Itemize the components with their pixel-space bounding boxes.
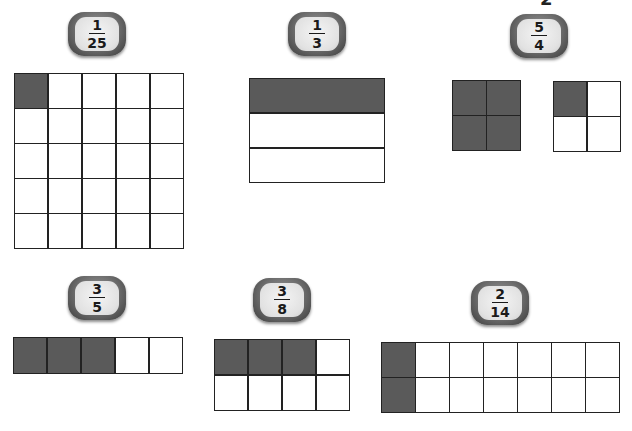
unshaded-cell <box>484 343 517 377</box>
fraction-badge-5-4: 5 4 <box>510 14 568 58</box>
fraction-model-1-25 <box>14 73 184 249</box>
numerator: 1 <box>312 18 322 32</box>
denominator: 14 <box>490 305 509 319</box>
unshaded-cell <box>317 340 349 374</box>
fraction-badge-3-5: 3 5 <box>68 276 126 320</box>
unshaded-cell <box>588 117 620 151</box>
unshaded-cell <box>83 144 115 178</box>
unshaded-cell <box>15 109 47 143</box>
unshaded-cell <box>588 82 620 116</box>
denominator: 4 <box>534 38 544 52</box>
fraction-bar <box>309 33 325 35</box>
unshaded-cell <box>586 378 619 412</box>
fraction-bar <box>531 35 547 37</box>
unshaded-cell <box>49 179 81 213</box>
unshaded-cell <box>150 338 182 373</box>
unshaded-cell <box>518 343 551 377</box>
shaded-cell <box>14 338 46 373</box>
unshaded-cell <box>116 338 148 373</box>
unshaded-cell <box>215 376 247 410</box>
unshaded-cell <box>83 109 115 143</box>
fraction-bar <box>274 299 290 301</box>
shaded-cell <box>283 340 315 374</box>
denominator: 25 <box>87 36 106 50</box>
fraction-label: 2 14 <box>478 286 522 320</box>
denominator: 5 <box>92 300 102 314</box>
fraction-model-3-8 <box>214 339 350 411</box>
shaded-cell <box>453 116 486 150</box>
page-number-fragment: 2 <box>540 0 553 9</box>
unshaded-cell <box>83 214 115 248</box>
shaded-cell <box>250 79 384 112</box>
fraction-label: 3 8 <box>260 283 304 317</box>
unshaded-cell <box>283 376 315 410</box>
shaded-cell <box>554 82 586 116</box>
fraction-badge-1-3: 1 3 <box>288 12 346 56</box>
unshaded-cell <box>151 179 183 213</box>
numerator: 1 <box>92 18 102 32</box>
fraction-label: 5 4 <box>517 19 561 53</box>
unshaded-cell <box>15 179 47 213</box>
fraction-model-3-5 <box>13 337 183 374</box>
unshaded-cell <box>250 114 384 147</box>
denominator: 3 <box>312 36 322 50</box>
unshaded-cell <box>151 144 183 178</box>
shaded-cell <box>15 74 47 108</box>
unshaded-cell <box>117 74 149 108</box>
shaded-cell <box>453 81 486 115</box>
unshaded-cell <box>117 144 149 178</box>
unshaded-cell <box>15 214 47 248</box>
shaded-cell <box>215 340 247 374</box>
unshaded-cell <box>450 378 483 412</box>
unshaded-cell <box>484 378 517 412</box>
unshaded-cell <box>117 214 149 248</box>
unshaded-cell <box>552 378 585 412</box>
shaded-cell <box>48 338 80 373</box>
unshaded-cell <box>151 109 183 143</box>
unshaded-cell <box>49 109 81 143</box>
unshaded-cell <box>117 109 149 143</box>
fraction-label: 1 25 <box>75 17 119 51</box>
fraction-bar <box>89 297 105 299</box>
unshaded-cell <box>518 378 551 412</box>
fraction-label: 1 3 <box>295 17 339 51</box>
fraction-bar <box>89 33 105 35</box>
unshaded-cell <box>151 74 183 108</box>
unshaded-cell <box>83 74 115 108</box>
unshaded-cell <box>83 179 115 213</box>
unshaded-cell <box>450 343 483 377</box>
numerator: 3 <box>277 284 287 298</box>
fraction-model-5-4-part <box>553 81 621 152</box>
numerator: 3 <box>92 282 102 296</box>
numerator: 5 <box>534 20 544 34</box>
fraction-model-5-4-whole <box>452 80 521 151</box>
unshaded-cell <box>249 376 281 410</box>
unshaded-cell <box>317 376 349 410</box>
shaded-cell <box>249 340 281 374</box>
shaded-cell <box>382 378 415 412</box>
numerator: 2 <box>495 287 505 301</box>
unshaded-cell <box>49 144 81 178</box>
unshaded-cell <box>49 74 81 108</box>
unshaded-cell <box>586 343 619 377</box>
unshaded-cell <box>117 179 149 213</box>
fraction-badge-3-8: 3 8 <box>253 278 311 322</box>
unshaded-cell <box>49 214 81 248</box>
fraction-model-1-3 <box>249 78 385 183</box>
shaded-cell <box>487 116 520 150</box>
unshaded-cell <box>416 343 449 377</box>
unshaded-cell <box>552 343 585 377</box>
fraction-label: 3 5 <box>75 281 119 315</box>
denominator: 8 <box>277 302 287 316</box>
unshaded-cell <box>15 144 47 178</box>
unshaded-cell <box>416 378 449 412</box>
fraction-badge-1-25: 1 25 <box>68 12 126 56</box>
unshaded-cell <box>151 214 183 248</box>
shaded-cell <box>487 81 520 115</box>
unshaded-cell <box>250 149 384 182</box>
shaded-cell <box>382 343 415 377</box>
shaded-cell <box>82 338 114 373</box>
fraction-bar <box>492 302 508 304</box>
unshaded-cell <box>554 117 586 151</box>
fraction-model-2-14 <box>381 342 620 413</box>
